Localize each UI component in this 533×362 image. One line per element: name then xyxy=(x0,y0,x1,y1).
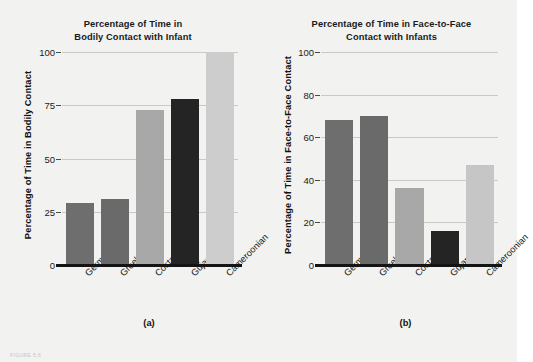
y-tick-mark xyxy=(56,159,61,160)
chart-title-a-line2: Bodily Contact with Infant xyxy=(18,31,248,44)
chart-title-a: Percentage of Time in Bodily Contact wit… xyxy=(18,18,248,43)
y-tick-mark xyxy=(315,52,320,53)
panel-letter-b: (b) xyxy=(276,318,533,328)
y-tick-label: 100 xyxy=(298,47,314,58)
y-tick-mark xyxy=(315,180,320,181)
y-tick-label: 100 xyxy=(39,47,55,58)
y-tick-mark xyxy=(315,222,320,223)
y-tick-mark xyxy=(56,212,61,213)
chart-title-b-line2: Contact with Infants xyxy=(276,31,507,44)
bar-greek xyxy=(101,199,129,265)
y-tick-label: 25 xyxy=(44,206,55,217)
plot-area-a: 0255075100 GermanGreekCosta RicanGujarat… xyxy=(62,52,238,265)
bars-a: GermanGreekCosta RicanGujaratiCameroonia… xyxy=(62,52,238,265)
y-tick-label: 50 xyxy=(44,153,55,164)
y-tick-label: 0 xyxy=(309,260,314,271)
x-axis-line-b xyxy=(315,264,502,267)
y-tick-label: 80 xyxy=(303,89,314,100)
bar-costa-rican xyxy=(136,110,164,265)
y-tick-label: 0 xyxy=(50,260,55,271)
chart-title-b-line1: Percentage of Time in Face-to-Face xyxy=(276,18,507,31)
figure-caption: FIGURE 5.6 xyxy=(10,352,41,358)
y-axis-label-a: Percentage of Time in Bodily Contact xyxy=(23,55,33,255)
y-axis-label-b: Percentage of Time in Face-to-Face Conta… xyxy=(283,55,293,255)
chart-panel-a: Percentage of Time in Bodily Contact wit… xyxy=(0,0,258,340)
bar-german xyxy=(325,120,353,265)
y-tick-label: 20 xyxy=(303,217,314,228)
chart-title-a-line1: Percentage of Time in xyxy=(18,18,248,31)
y-tick-label: 60 xyxy=(303,132,314,143)
y-tick-mark xyxy=(315,137,320,138)
x-axis-line-a xyxy=(56,264,242,267)
plot-area-b: 020406080100 GermanGreekCosta RicanGujar… xyxy=(321,52,498,265)
bar-german xyxy=(66,203,94,265)
y-tick-mark xyxy=(315,95,320,96)
y-tick-mark xyxy=(56,105,61,106)
bar-cameroonian xyxy=(466,165,494,265)
bar-cameroonian xyxy=(206,52,234,265)
chart-title-b: Percentage of Time in Face-to-Face Conta… xyxy=(276,18,507,43)
chart-panel-b: Percentage of Time in Face-to-Face Conta… xyxy=(258,0,517,340)
y-tick-label: 75 xyxy=(44,100,55,111)
bar-gujarati xyxy=(431,231,459,265)
panel-letter-a: (a) xyxy=(20,318,278,328)
bar-costa-rican xyxy=(395,188,423,265)
y-tick-mark xyxy=(56,52,61,53)
bar-gujarati xyxy=(171,99,199,265)
bar-greek xyxy=(360,116,388,265)
bars-b: GermanGreekCosta RicanGujaratiCameroonia… xyxy=(321,52,498,265)
y-tick-label: 40 xyxy=(303,174,314,185)
